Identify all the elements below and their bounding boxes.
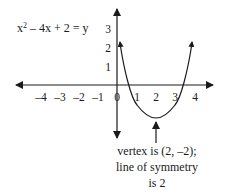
x-tick: –3: [53, 91, 66, 103]
y-tick: 1: [105, 61, 111, 73]
vertex-caption: vertex is (2, –2); line of symmetry is 2: [97, 143, 217, 191]
x-tick: 1: [134, 91, 140, 103]
caption-line-1: vertex is (2, –2);: [97, 143, 217, 159]
x-tick: –2: [72, 91, 85, 103]
x-tick: –4: [34, 91, 47, 103]
equation-rest: – 4x + 2 = y: [27, 21, 89, 35]
y-tick: 2: [105, 42, 111, 54]
x-tick: 3: [172, 91, 178, 103]
caption-line-2: line of symmetry: [97, 159, 217, 175]
x-tick: 0: [114, 91, 120, 103]
parabola-curve: [120, 43, 192, 118]
x-tick: –1: [91, 91, 104, 103]
x-tick: 2: [153, 91, 159, 103]
y-tick: 3: [105, 23, 111, 35]
curve-left-arrow-icon: [120, 42, 121, 47]
curve-right-arrow-icon: [191, 42, 192, 47]
x-tick-labels: –4 –3 –2 –1 0 1 2 3 4: [34, 91, 198, 103]
y-tick-labels: 1 2 3: [105, 23, 111, 73]
x-tick: 4: [192, 91, 198, 103]
caption-line-3: is 2: [97, 175, 217, 191]
equation-label: x2 – 4x + 2 = y: [17, 21, 89, 36]
